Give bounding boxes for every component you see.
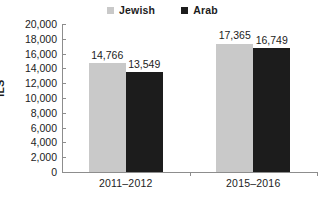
bar-arab-1 — [253, 48, 290, 172]
y-axis-tick-label: 20,000 — [25, 19, 57, 30]
legend-item-arab: Arab — [181, 5, 218, 16]
y-axis-tick-label: 14,000 — [25, 63, 57, 74]
bar-jewish-0 — [89, 63, 126, 172]
bar-jewish-1 — [216, 44, 253, 173]
bar-value-label: 16,749 — [247, 35, 296, 46]
bar-chart: Jewish Arab ILS 20,00018,00016,00014,000… — [0, 0, 325, 197]
chart-legend: Jewish Arab — [0, 2, 325, 18]
legend-swatch-arab-icon — [181, 7, 188, 14]
y-axis-tick-mark — [62, 172, 66, 173]
y-axis-tick-label: 8,000 — [31, 108, 57, 119]
x-axis-category-label: 2015–2016 — [190, 178, 318, 189]
y-axis-tick-label: 0 — [51, 167, 57, 178]
y-axis-tick-label: 12,000 — [25, 78, 57, 89]
y-axis-tick-label: 2,000 — [31, 152, 57, 163]
y-axis-tick-label: 18,000 — [25, 34, 57, 45]
y-axis-tick-label: 16,000 — [25, 48, 57, 59]
legend-item-jewish: Jewish — [107, 5, 155, 16]
legend-label-jewish: Jewish — [119, 5, 155, 16]
y-axis-tick-label: 6,000 — [31, 122, 57, 133]
legend-label-arab: Arab — [193, 5, 218, 16]
y-axis-title: ILS — [0, 79, 6, 96]
bar-arab-0 — [126, 72, 163, 172]
x-axis-separator — [190, 172, 191, 176]
bar-value-label: 13,549 — [120, 59, 169, 70]
y-axis-tick-label: 10,000 — [25, 93, 57, 104]
x-axis-separator — [317, 172, 318, 176]
y-axis-tick-label: 4,000 — [31, 137, 57, 148]
x-axis-category-label: 2011–2012 — [62, 178, 190, 189]
plot-area — [62, 24, 317, 172]
legend-swatch-jewish-icon — [107, 7, 114, 14]
